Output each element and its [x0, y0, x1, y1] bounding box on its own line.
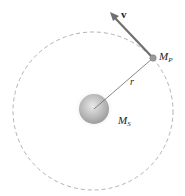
planet [150, 55, 156, 61]
velocity-label: v [121, 8, 127, 20]
radius-label: r [130, 76, 134, 87]
velocity-arrow-shaft [115, 18, 153, 58]
orbit-diagram: v MP r MS [0, 0, 185, 196]
planet-mass-label: MP [158, 50, 173, 64]
sun-mass-label: MS [117, 114, 131, 128]
radius-line [94, 58, 153, 109]
